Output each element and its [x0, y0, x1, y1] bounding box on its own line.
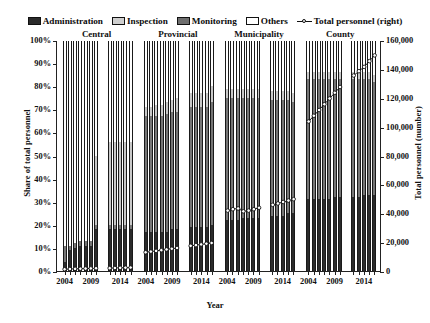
legend-item-administration: Administration	[28, 16, 103, 26]
legend-label: Administration	[43, 16, 103, 26]
x-axis-tick	[125, 271, 126, 275]
x-axis-tick	[335, 271, 336, 275]
x-axis-tick-label: 2009	[326, 277, 343, 286]
x-axis-tick	[324, 271, 325, 275]
panel-county: 200420092014	[301, 41, 382, 271]
x-axis-tick	[369, 271, 370, 275]
x-axis-tick-label: 2009	[245, 277, 262, 286]
y-axis-left-tick-label: 100%	[30, 36, 51, 45]
x-axis-tick	[232, 271, 233, 275]
legend-item-inspection: Inspection	[112, 16, 168, 26]
x-axis-tick-label: 2004	[300, 277, 317, 286]
x-axis-tick	[253, 271, 254, 275]
x-axis-tick	[293, 271, 294, 275]
x-axis-tick	[288, 271, 289, 275]
x-axis-tick	[201, 271, 202, 275]
total-personnel-line	[301, 41, 382, 271]
x-axis-tick	[120, 271, 121, 275]
y-axis-left-tick-label: 40%	[34, 175, 51, 184]
x-axis-tick-label: 2009	[164, 277, 181, 286]
x-axis-tick	[151, 271, 152, 275]
x-axis-tick-label: 2004	[56, 277, 73, 286]
y-axis-left-title: Share of total personnel	[22, 68, 32, 238]
total-personnel-line	[220, 41, 301, 271]
legend-swatch-icon	[112, 17, 125, 25]
y-axis-left-tick-label: 80%	[34, 82, 51, 91]
x-axis-tick-label: 2004	[219, 277, 236, 286]
y-axis-left-tick-label: 30%	[34, 198, 51, 207]
x-axis-tick-label: 2014	[356, 277, 373, 286]
y-axis-right-tick-label: 120,000	[386, 94, 413, 103]
y-axis-left-tick-label: 60%	[34, 128, 51, 137]
x-axis-title: Year	[0, 300, 430, 310]
x-axis-tick	[248, 271, 249, 275]
x-axis-tick	[115, 271, 116, 275]
x-axis-tick	[70, 271, 71, 275]
legend-label: Inspection	[127, 16, 168, 26]
x-axis-tick	[75, 271, 76, 275]
y-axis-right-tick-label: 100,000	[386, 123, 413, 132]
x-axis-tick	[162, 271, 163, 275]
y-axis-left-tick-label: 90%	[34, 59, 51, 68]
x-axis-tick	[308, 271, 309, 275]
panel-provincial: 200420092014	[138, 41, 219, 271]
x-axis-tick	[272, 271, 273, 275]
x-axis-tick	[86, 271, 87, 275]
x-axis-tick	[314, 271, 315, 275]
x-axis-tick	[259, 271, 260, 275]
x-axis-tick-label: 2009	[82, 277, 99, 286]
legend-label: Monitoring	[192, 16, 237, 26]
x-axis-tick	[353, 271, 354, 275]
legend-label: Total personnel (right)	[314, 16, 402, 26]
x-axis-tick	[227, 271, 228, 275]
panel-municipality: 200420092014	[220, 41, 301, 271]
legend-line-marker-icon	[297, 17, 312, 25]
y-axis-left-tick	[53, 272, 57, 273]
x-axis-tick	[110, 271, 111, 275]
y-axis-right-tick-label: 0	[386, 267, 390, 276]
y-axis-left-tick-label: 70%	[34, 105, 51, 114]
x-axis-tick	[131, 271, 132, 275]
x-axis-tick	[329, 271, 330, 275]
legend-item-total-personnel-right: Total personnel (right)	[297, 16, 402, 26]
total-personnel-line	[57, 41, 138, 271]
x-axis-tick	[340, 271, 341, 275]
x-axis-tick	[196, 271, 197, 275]
x-axis-tick	[359, 271, 360, 275]
x-axis-tick-label: 2014	[193, 277, 210, 286]
legend-swatch-icon	[246, 17, 259, 25]
chart-legend: AdministrationInspectionMonitoringOthers…	[0, 14, 430, 28]
y-axis-right-tick-label: 80,000	[386, 152, 409, 161]
legend-swatch-icon	[28, 17, 41, 25]
chart-figure: AdministrationInspectionMonitoringOthers…	[0, 0, 430, 323]
x-axis-tick	[65, 271, 66, 275]
plot-area: 0%10%20%30%40%50%60%70%80%90%100%020,000…	[56, 41, 381, 272]
legend-label: Others	[261, 16, 288, 26]
y-axis-left-tick-label: 10%	[34, 244, 51, 253]
y-axis-right-title: Total personnel (number)	[413, 68, 423, 238]
x-axis-tick	[212, 271, 213, 275]
x-axis-tick	[364, 271, 365, 275]
y-axis-right-tick-label: 60,000	[386, 180, 409, 189]
panel-title-municipality: Municipality	[219, 29, 300, 39]
x-axis-tick	[277, 271, 278, 275]
x-axis-tick-label: 2004	[137, 277, 154, 286]
x-axis-tick-label: 2014	[274, 277, 291, 286]
panel-central: 200420092014	[57, 41, 138, 271]
x-axis-tick	[283, 271, 284, 275]
panel-title-central: Central	[56, 29, 137, 39]
y-axis-left-tick-label: 0%	[38, 267, 51, 276]
y-axis-left-tick-label: 20%	[34, 221, 51, 230]
x-axis-tick	[319, 271, 320, 275]
x-axis-tick	[177, 271, 178, 275]
x-axis-tick	[156, 271, 157, 275]
x-axis-tick	[191, 271, 192, 275]
x-axis-tick	[243, 271, 244, 275]
y-axis-right-tick-label: 160,000	[386, 36, 413, 45]
y-axis-right-tick-label: 20,000	[386, 238, 409, 247]
x-axis-tick	[207, 271, 208, 275]
total-personnel-line	[138, 41, 219, 271]
y-axis-right-tick	[380, 272, 384, 273]
x-axis-tick	[91, 271, 92, 275]
x-axis-tick	[80, 271, 81, 275]
